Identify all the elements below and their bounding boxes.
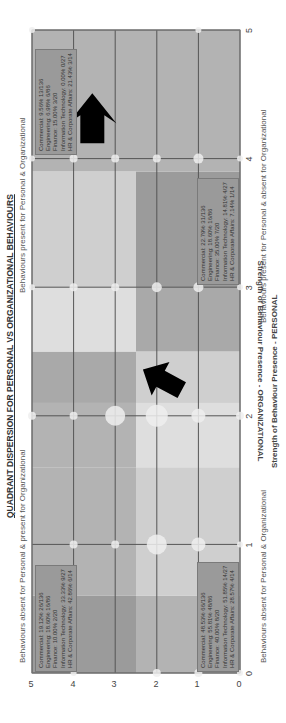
stats-box-top-left: Commercial: 19.12% 26/136Engineering: 18… — [35, 565, 77, 672]
bubble — [29, 284, 35, 290]
y-tick-label: 1 — [195, 679, 200, 689]
x-tick-label: 1 — [244, 542, 254, 547]
bubble — [193, 154, 203, 164]
bubble — [237, 541, 243, 547]
bubble — [29, 156, 35, 162]
y-tick-label: 2 — [153, 679, 158, 689]
y-tick-label: 5 — [28, 679, 33, 689]
x-tick-label: 3 — [244, 285, 254, 290]
bubble — [111, 155, 119, 163]
bubble — [146, 405, 168, 427]
stats-box-bottom-left: Commercial: 48.53% 66/136Engineering: 55… — [197, 562, 239, 672]
bubble — [152, 282, 162, 292]
stats-line: Information Technology: 33.33% 9/27 — [60, 569, 67, 668]
bubble — [191, 537, 205, 551]
bubble — [29, 27, 35, 33]
bubble — [195, 27, 201, 33]
stats-line: HR & Corporate Affairs: 28.57% 4/14 — [229, 566, 236, 668]
quadrant-label-top-right: Behaviours present for Personal & Organi… — [18, 117, 27, 293]
stats-line: Commercial: 9.56% 13/136 — [38, 53, 45, 151]
bubble — [237, 156, 243, 162]
bubble — [105, 406, 125, 426]
stats-line: Engineering: 18.60% 16/86 — [207, 182, 214, 281]
chart-title: QUADRANT DISPERSION FOR PERSONAL VS ORGA… — [5, 194, 15, 518]
stats-line: HR & Corporate Affairs: 21.43% 3/14 — [67, 53, 74, 151]
stats-line: Engineering: 18.60% 16/86 — [45, 569, 52, 668]
bubble — [153, 155, 161, 163]
x-tick-label: 0 — [244, 671, 254, 676]
y-tick-label: 3 — [112, 679, 117, 689]
bubble — [70, 283, 78, 291]
quadrant-band — [32, 352, 136, 403]
x-tick-label: 4 — [244, 157, 254, 162]
x-axis-title: Strength of Behaviour Presence - PERSONA… — [270, 295, 279, 468]
bubble — [111, 283, 119, 291]
stats-line: Finance: 15.00% 3/20 — [52, 53, 59, 151]
stats-line: Engineering: 55.81% 48/86 — [207, 566, 214, 668]
y-tick-label: 4 — [70, 679, 75, 689]
quadrant-label-top-left: Behaviours absent for Personal & present… — [18, 450, 27, 663]
bubble — [70, 540, 78, 548]
quadrant-band — [32, 287, 90, 351]
quadrant-band — [32, 171, 136, 287]
bubble — [28, 412, 36, 420]
quadrant-band — [136, 30, 240, 171]
stats-line: Commercial: 22.79% 31/136 — [200, 182, 207, 281]
stats-line: Finance: 35.00% 7/20 — [214, 182, 221, 281]
y-axis-title: Strength of Behaviour Presence - ORGANIZ… — [256, 261, 265, 462]
stats-line: Information Technology: 51.85% 14/27 — [222, 566, 229, 668]
bubble — [111, 540, 119, 548]
stats-line: Engineering: 6.98% 6/86 — [45, 53, 52, 151]
bubble — [191, 409, 205, 423]
stats-box-bottom-right: Commercial: 22.79% 31/136Engineering: 18… — [197, 178, 239, 285]
bubble — [147, 534, 167, 554]
bubble — [70, 155, 78, 163]
y-tick-label: 0 — [236, 679, 241, 689]
bubble — [70, 412, 78, 420]
quadrant-band — [136, 287, 240, 351]
stats-line: Information Technology: 14.81% 4/27 — [222, 182, 229, 281]
stats-line: Information Technology: 0.00% 0/27 — [60, 53, 67, 151]
stats-line: Finance: 10.00% 2/20 — [52, 569, 59, 668]
stats-line: HR & Corporate Affairs: 7.14% 1/14 — [229, 182, 236, 281]
stats-line: HR & Corporate Affairs: 42.86% 6/14 — [67, 569, 74, 668]
x-tick-label: 2 — [244, 414, 254, 419]
bubble — [153, 669, 161, 677]
stats-box-top-right: Commercial: 9.56% 13/136Engineering: 6.9… — [35, 49, 77, 155]
bubble — [237, 284, 243, 290]
stats-line: Finance: 40.00% 8/20 — [214, 566, 221, 668]
x-tick-label: 5 — [244, 28, 254, 33]
quadrant-label-bottom-left: Behaviours absent for Personal & Organiz… — [259, 490, 268, 663]
stats-line: Commercial: 48.53% 66/136 — [200, 566, 207, 668]
stats-line: Commercial: 19.12% 26/136 — [38, 569, 45, 668]
rotated-chart-container: QUADRANT DISPERSION FOR PERSONAL VS ORGA… — [0, 0, 286, 723]
bubble — [236, 412, 244, 420]
